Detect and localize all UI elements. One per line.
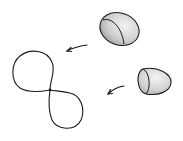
figure-eight-curve (13, 51, 83, 128)
diagram-svg (0, 0, 183, 141)
ellipsoid-upper (95, 7, 144, 51)
ellipsoid-lower (138, 68, 171, 94)
arrow-lower (108, 86, 124, 94)
arrow-upper (67, 45, 87, 52)
diagram-canvas (0, 0, 183, 141)
